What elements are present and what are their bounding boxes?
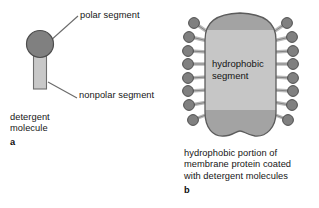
panel-a-group xyxy=(27,16,79,98)
label-hydrophobic-segment: hydrophobic segment xyxy=(212,58,292,82)
detergent-molecule xyxy=(274,86,298,97)
detergent-molecule xyxy=(184,32,208,43)
detergent-molecule xyxy=(273,100,297,111)
leader-line-polar-segment xyxy=(50,16,78,41)
polar-head-shape xyxy=(27,31,54,58)
detergent-molecule xyxy=(183,86,207,97)
label-polar-segment: polar segment xyxy=(80,10,140,21)
detergent-molecule xyxy=(183,59,207,70)
leader-line-nonpolar-segment xyxy=(48,82,77,98)
detergent-molecule xyxy=(184,100,208,111)
caption-detergent-molecule: detergent molecule xyxy=(10,112,50,135)
label-nonpolar-segment: nonpolar segment xyxy=(79,90,154,101)
detergent-molecule xyxy=(273,32,297,43)
nonpolar-tail-shape xyxy=(34,53,47,89)
panel-letter-a: a xyxy=(10,137,15,147)
detergent-molecule xyxy=(183,73,207,84)
panel-letter-b: b xyxy=(184,185,190,195)
figure-container: polar segment nonpolar segment detergent… xyxy=(0,0,319,208)
detergent-molecule xyxy=(274,46,298,57)
caption-membrane-protein: hydrophobic portion of membrane protein … xyxy=(184,148,291,182)
detergent-molecule xyxy=(183,46,207,57)
